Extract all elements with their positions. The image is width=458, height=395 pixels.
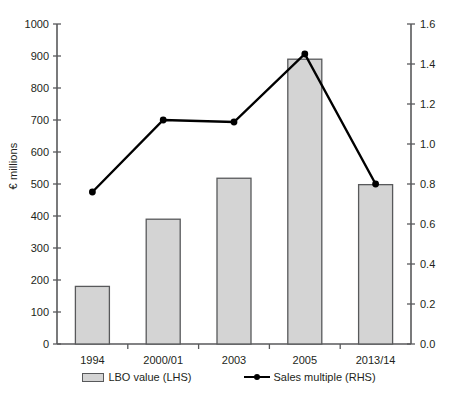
line-marker-1994	[89, 189, 96, 196]
y-axis-right-tick-label: 0.0	[420, 339, 435, 350]
y-axis-title-left: € millions	[7, 121, 19, 211]
y-axis-left-tick-label: 300	[31, 243, 49, 254]
x-axis-label-2000-01: 2000/01	[143, 354, 183, 366]
chart-legend: LBO value (LHS) Sales multiple (RHS)	[0, 371, 458, 383]
x-axis-label-1994: 1994	[80, 354, 104, 366]
y-axis-left-tick-label: 1000	[25, 19, 49, 30]
y-axis-left-tick-label: 400	[31, 211, 49, 222]
y-axis-right-tick-label: 1.4	[420, 59, 435, 70]
y-axis-right-tick-label: 0.4	[420, 259, 435, 270]
bar-2013-14	[359, 185, 393, 344]
line-marker-icon	[244, 373, 270, 382]
bar-1994	[75, 286, 109, 344]
legend-item-sales-multiple: Sales multiple (RHS)	[244, 371, 376, 383]
bar-2003	[217, 178, 251, 344]
legend-label-lbo-value: LBO value (LHS)	[108, 371, 191, 383]
y-axis-right-tick-label: 1.2	[420, 99, 435, 110]
line-marker-2005	[301, 51, 308, 58]
y-axis-left-tick-label: 200	[31, 275, 49, 286]
line-marker-2000-01	[160, 117, 167, 124]
y-axis-left-tick-label: 100	[31, 307, 49, 318]
x-axis-label-2005: 2005	[293, 354, 317, 366]
y-axis-left-tick-label: 500	[31, 179, 49, 190]
line-marker-2013-14	[372, 181, 379, 188]
legend-label-sales-multiple: Sales multiple (RHS)	[274, 371, 376, 383]
y-axis-left-tick-label: 700	[31, 115, 49, 126]
line-marker-2003	[231, 119, 238, 126]
y-axis-right-tick-label: 1.0	[420, 139, 435, 150]
y-axis-left-tick-label: 800	[31, 83, 49, 94]
x-axis-label-2003: 2003	[222, 354, 246, 366]
y-axis-right-tick-label: 1.6	[420, 19, 435, 30]
bar-2000-01	[146, 219, 180, 344]
y-axis-right-tick-label: 0.6	[420, 219, 435, 230]
bar-2005	[288, 59, 322, 344]
bar-swatch-icon	[82, 373, 104, 382]
y-axis-right-tick-label: 0.8	[420, 179, 435, 190]
chart-container: € millions 01002003004005006007008009001…	[0, 0, 458, 395]
y-axis-left-tick-label: 0	[43, 339, 49, 350]
legend-item-lbo-value: LBO value (LHS)	[82, 371, 191, 383]
y-axis-left-tick-label: 600	[31, 147, 49, 158]
x-axis-label-2013-14: 2013/14	[356, 354, 396, 366]
chart-plot-area	[0, 0, 458, 395]
y-axis-right-tick-label: 0.2	[420, 299, 435, 310]
y-axis-left-tick-label: 900	[31, 51, 49, 62]
